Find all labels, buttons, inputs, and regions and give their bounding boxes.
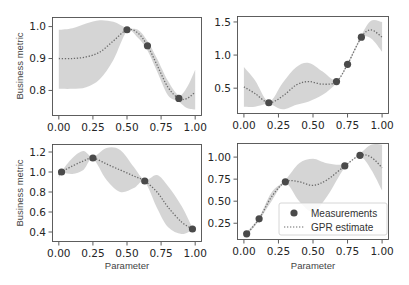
plot-area [58,147,196,234]
plot-area [59,20,195,109]
confidence-band [244,20,382,109]
x-tick-label: 0.25 [267,245,290,257]
y-tick-label: 0.6 [29,206,46,218]
x-tick-label: 0.75 [336,119,359,131]
x-tick-label: 1.00 [183,247,206,259]
y-tick-label: 1.00 [208,151,231,163]
y-axis-label-top: Business metric [14,32,25,99]
x-axis-label-left: Parameter [105,260,149,271]
measurement-point [175,95,182,102]
x-tick-label: 0.00 [47,247,70,259]
measurement-point [58,168,65,175]
measurement-point [189,225,196,232]
measurement-point [144,42,151,49]
panel-top-left: 0.000.250.500.751.000.80.91.0 [29,18,207,134]
figure-canvas: 0.000.250.500.751.000.80.91.00.000.250.5… [0,0,409,285]
measurement-point [356,152,363,159]
confidence-band [59,147,193,234]
measurement-point [243,230,250,237]
x-tick-label: 0.00 [232,119,255,131]
plot-area [244,20,382,109]
panel-bottom-left: 0.000.250.500.751.000.40.60.81.01.2 [29,145,207,260]
measurement-point [123,26,130,33]
measurement-point [341,162,348,169]
y-tick-label: 0.9 [29,52,46,64]
measurement-point [89,154,96,161]
y-tick-label: 0.4 [29,226,46,238]
measurement-point [141,177,148,184]
x-tick-label: 0.00 [232,245,255,257]
x-tick-label: 0.50 [301,245,324,257]
x-axis-label-right: Parameter [291,260,335,271]
y-tick-label: 0.50 [208,195,231,207]
panel-top-right: 0.000.250.500.751.000.51.01.5 [214,16,393,131]
x-tick-label: 0.50 [115,121,138,133]
x-tick-label: 0.50 [301,119,324,131]
y-tick-label: 0.25 [208,217,231,229]
x-tick-label: 0.75 [336,245,359,257]
y-axis-label-bottom: Business metric [14,159,25,226]
y-tick-label: 0.8 [29,84,46,96]
measurement-point [333,78,340,85]
x-tick-label: 1.00 [183,121,206,133]
x-tick-label: 1.00 [370,245,393,257]
y-tick-label: 0.75 [208,173,231,185]
x-tick-label: 0.75 [149,121,172,133]
measurement-point [358,34,365,41]
y-tick-label: 1.0 [29,20,46,32]
legend-gpr-label: GPR estimate [311,222,374,233]
measurement-point [265,99,272,106]
y-tick-label: 1.2 [29,146,46,158]
legend-measurements-label: Measurements [311,208,377,219]
measurement-point [282,178,289,185]
legend: Measurements GPR estimate [279,203,387,235]
y-tick-label: 0.5 [214,82,231,94]
x-tick-label: 0.25 [267,119,290,131]
y-tick-label: 1.5 [214,16,231,28]
legend-marker-icon [290,209,297,216]
x-tick-label: 0.25 [81,121,104,133]
x-tick-label: 0.25 [81,247,104,259]
y-tick-label: 1.0 [29,166,46,178]
x-tick-label: 0.00 [47,121,70,133]
measurement-point [256,215,263,222]
y-tick-label: 1.0 [214,49,231,61]
y-tick-label: 0.8 [29,186,46,198]
panel-bottom-right: 0.000.250.500.751.000.250.500.751.00 [208,144,394,258]
x-tick-label: 1.00 [370,119,393,131]
x-tick-label: 0.75 [149,247,172,259]
measurement-point [344,61,351,68]
x-tick-label: 0.50 [115,247,138,259]
